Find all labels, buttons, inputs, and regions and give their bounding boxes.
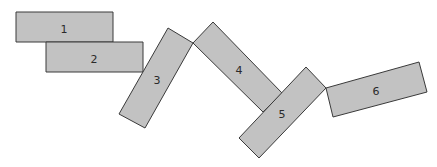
block-1-label: 1 bbox=[61, 23, 68, 36]
block-2: 2 bbox=[46, 42, 143, 72]
block-2-label: 2 bbox=[91, 53, 98, 66]
block-diagram: 1 2 3 4 5 6 bbox=[0, 0, 437, 167]
block-6-label: 6 bbox=[373, 85, 380, 98]
block-5-label: 5 bbox=[279, 108, 286, 121]
block-1: 1 bbox=[16, 12, 113, 42]
block-4-label: 4 bbox=[236, 64, 243, 77]
block-4: 4 bbox=[193, 22, 282, 112]
block-3-label: 3 bbox=[154, 74, 161, 87]
block-6: 6 bbox=[326, 62, 427, 117]
